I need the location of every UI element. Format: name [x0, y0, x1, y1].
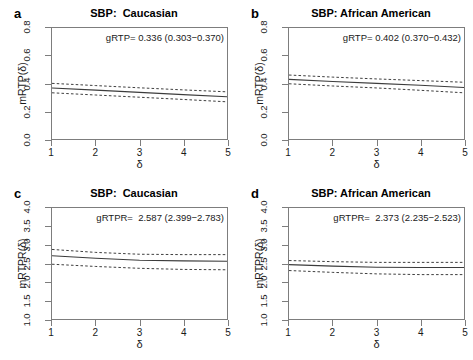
- panel-title-b: SBP: African American: [273, 7, 469, 19]
- y-tick-label: 0.2: [258, 99, 270, 125]
- x-tick-label: 2: [83, 327, 107, 338]
- plot-area-b: gRTP= 0.402 (0.370−0.432): [288, 27, 465, 140]
- x-tick-mark: [377, 320, 378, 326]
- panel-a: a SBP: Caucasian mRTP(δ) 0.00.20.40.60.8…: [0, 0, 236, 180]
- x-tick-mark: [465, 140, 466, 146]
- estimate-line: [52, 88, 227, 97]
- x-tick-label: 4: [172, 327, 196, 338]
- confidence-band-line: [52, 249, 227, 254]
- x-axis-label-c: δ: [51, 338, 228, 350]
- x-tick-mark: [288, 320, 289, 326]
- panel-c: c SBP: Caucasian mRTPR(δ) 1.01.52.02.53.…: [0, 180, 236, 360]
- y-tick-label: 4.0: [258, 194, 270, 220]
- x-tick-mark: [140, 320, 141, 326]
- x-tick-label: 3: [128, 327, 152, 338]
- x-axis-label-b: δ: [288, 158, 465, 170]
- x-tick-label: 2: [83, 147, 107, 158]
- confidence-band-line: [289, 261, 464, 263]
- y-tick-label: 0.6: [258, 42, 270, 68]
- confidence-band-line: [52, 93, 227, 102]
- x-tick-mark: [288, 140, 289, 146]
- plot-area-c: gRTPR= 2.587 (2.399−2.783): [51, 207, 228, 320]
- y-tick-label: 0.2: [21, 99, 33, 125]
- y-tick-label: 0.4: [258, 71, 270, 97]
- y-tick-label: 0.4: [21, 71, 33, 97]
- figure-panel-grid: a SBP: Caucasian mRTP(δ) 0.00.20.40.60.8…: [0, 0, 473, 360]
- y-tick-label: 0.6: [21, 42, 33, 68]
- curve-group-d: [289, 208, 464, 319]
- annotation-b: gRTP= 0.402 (0.370−0.432): [343, 32, 461, 43]
- x-tick-label: 5: [453, 147, 473, 158]
- x-tick-label: 1: [39, 147, 63, 158]
- estimate-line: [289, 79, 464, 87]
- x-tick-label: 2: [320, 327, 344, 338]
- x-tick-label: 3: [365, 147, 389, 158]
- x-tick-label: 4: [409, 147, 433, 158]
- x-tick-mark: [51, 140, 52, 146]
- annotation-c: gRTPR= 2.587 (2.399−2.783): [96, 212, 224, 223]
- x-tick-label: 1: [276, 327, 300, 338]
- x-tick-label: 4: [409, 327, 433, 338]
- x-tick-mark: [95, 320, 96, 326]
- annotation-d: gRTPR= 2.373 (2.235−2.523): [333, 212, 461, 223]
- x-tick-mark: [332, 140, 333, 146]
- x-tick-mark: [228, 140, 229, 146]
- x-tick-label: 1: [276, 147, 300, 158]
- x-tick-mark: [51, 320, 52, 326]
- confidence-band-line: [52, 264, 227, 270]
- panel-d: d SBP: African American mRTPR(δ) 1.01.52…: [237, 180, 473, 360]
- x-axis-label-d: δ: [288, 338, 465, 350]
- x-tick-mark: [332, 320, 333, 326]
- annotation-a: gRTP= 0.336 (0.303−0.370): [106, 32, 224, 43]
- x-tick-label: 4: [172, 147, 196, 158]
- y-tick-label: 4.0: [21, 194, 33, 220]
- panel-title-d: SBP: African American: [273, 187, 469, 199]
- plot-area-d: gRTPR= 2.373 (2.235−2.523): [288, 207, 465, 320]
- x-tick-label: 1: [39, 327, 63, 338]
- panel-title-a: SBP: Caucasian: [36, 7, 232, 19]
- panel-b: b SBP: African American mRTP(δ) 0.00.20.…: [237, 0, 473, 180]
- x-tick-label: 2: [320, 147, 344, 158]
- x-tick-mark: [140, 140, 141, 146]
- curve-group-b: [289, 28, 464, 139]
- confidence-band-line: [289, 84, 464, 93]
- curve-group-c: [52, 208, 227, 319]
- x-tick-mark: [184, 320, 185, 326]
- x-tick-mark: [184, 140, 185, 146]
- y-tick-label: 0.0: [258, 127, 270, 153]
- x-tick-label: 3: [365, 327, 389, 338]
- confidence-band-line: [289, 271, 464, 275]
- confidence-band-line: [52, 83, 227, 91]
- x-tick-mark: [95, 140, 96, 146]
- estimate-line: [289, 265, 464, 268]
- y-tick-label: 0.8: [21, 14, 33, 40]
- y-tick-label: 0.8: [258, 14, 270, 40]
- x-tick-mark: [465, 320, 466, 326]
- y-tick-label: 0.0: [21, 127, 33, 153]
- estimate-line: [52, 256, 227, 262]
- x-tick-mark: [421, 140, 422, 146]
- panel-title-c: SBP: Caucasian: [36, 187, 232, 199]
- x-tick-mark: [421, 320, 422, 326]
- x-tick-label: 5: [453, 327, 473, 338]
- x-tick-label: 3: [128, 147, 152, 158]
- x-tick-mark: [228, 320, 229, 326]
- x-tick-mark: [377, 140, 378, 146]
- plot-area-a: gRTP= 0.336 (0.303−0.370): [51, 27, 228, 140]
- curve-group-a: [52, 28, 227, 139]
- x-axis-label-a: δ: [51, 158, 228, 170]
